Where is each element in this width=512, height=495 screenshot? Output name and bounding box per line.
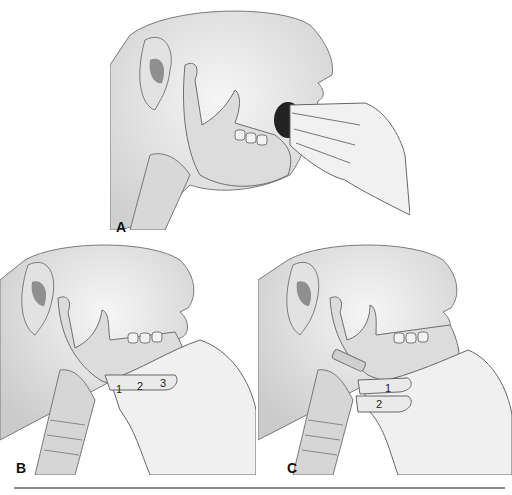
panel-label-c: C [287,460,297,476]
panel-b: 1 2 3 B [0,240,256,475]
panel-a: A [110,5,410,230]
panel-c: 1 2 C [258,240,512,475]
panel-c-illustration [258,240,512,475]
panel-label-b: B [16,460,26,476]
panel-a-illustration [110,5,410,230]
finger-number-1: 1 [116,383,122,395]
finger-number-1: 1 [385,382,391,394]
panel-label-a: A [116,219,126,235]
finger-number-2: 2 [376,398,382,410]
bottom-rule-divider [14,487,505,489]
panel-b-illustration [0,240,256,475]
finger-number-2: 2 [137,380,143,392]
finger-number-3: 3 [160,377,166,389]
